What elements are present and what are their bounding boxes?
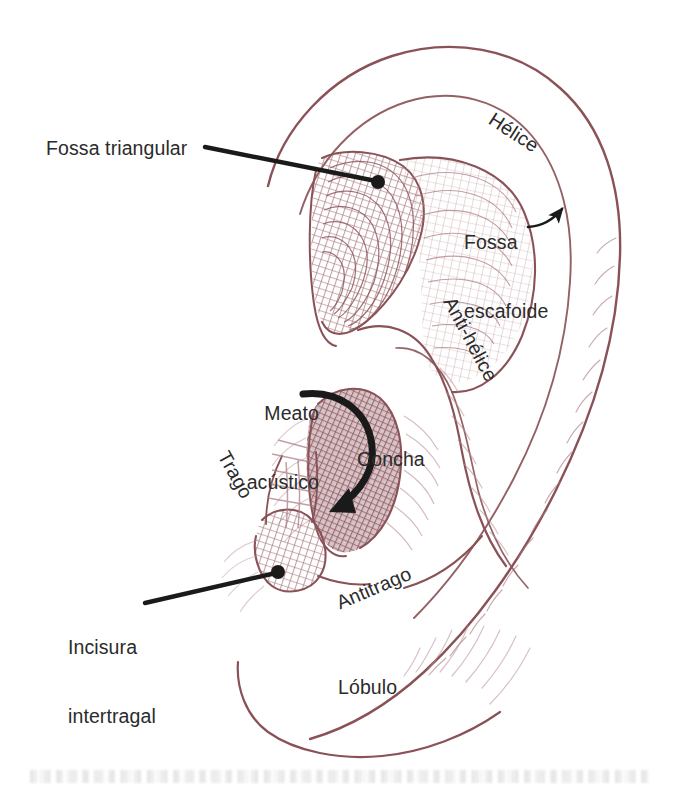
ear-anatomy-figure: Fossa triangular Hélice Fossa escafoide …: [0, 0, 676, 789]
label-incisura-intertragal: Incisura intertragal: [68, 590, 156, 774]
label-fossa-triangular: Fossa triangular: [46, 137, 187, 160]
label-concha: Concha: [357, 448, 425, 471]
label-incisura-intertragal-line1: Incisura: [68, 636, 156, 659]
label-fossa-escafoide-line1: Fossa: [464, 231, 548, 254]
leader-dot-fossa-triangular: [371, 175, 385, 189]
label-lobulo: Lóbulo: [338, 676, 397, 699]
leader-dot-incisura-intertragal: [271, 565, 285, 579]
leader-incisura-intertragal: [145, 573, 276, 603]
label-incisura-intertragal-line2: intertragal: [68, 705, 156, 728]
page-bleed-smudge: [30, 770, 650, 783]
label-meato-acustico-line1: Meato: [219, 402, 319, 425]
label-fossa-escafoide-line2: escafoide: [464, 300, 548, 323]
